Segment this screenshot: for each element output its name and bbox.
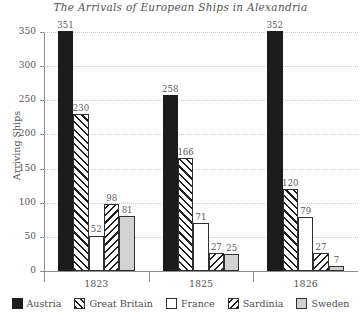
bar-value-label: 27	[307, 242, 334, 252]
y-axis-label: Arriving Ships	[11, 91, 22, 201]
legend-item-great-britain[interactable]: Great Britain	[74, 298, 152, 309]
legend-swatch-icon	[166, 298, 177, 309]
legend-label: Great Britain	[89, 298, 152, 309]
legend-label: Sweden	[311, 298, 349, 309]
x-tick-label: 1826	[253, 278, 358, 289]
y-tick-label: 0	[2, 265, 36, 275]
legend-item-austria[interactable]: Austria	[12, 298, 62, 309]
legend-swatch-icon	[296, 298, 307, 309]
grid-line	[44, 169, 358, 170]
x-axis-separator	[44, 271, 45, 282]
bar-sardinia-1825	[209, 253, 224, 271]
bar-value-label: 81	[113, 205, 140, 215]
bar-value-label: 258	[157, 84, 184, 94]
legend-swatch-icon	[12, 298, 23, 309]
plot-area: 35123052988125816671272535212079277	[44, 32, 358, 271]
grid-line	[44, 32, 358, 33]
y-tick-label: 250	[2, 94, 36, 104]
y-tick-label: 50	[2, 231, 36, 241]
bar-austria-1825	[163, 95, 178, 271]
bar-austria-1823	[58, 31, 73, 271]
bar-france-1823	[89, 236, 104, 272]
legend-label: Sardinia	[243, 298, 284, 309]
chart-legend: AustriaGreat BritainFranceSardiniaSweden	[0, 298, 361, 309]
bar-sweden-1823	[119, 216, 134, 271]
legend-swatch-icon	[74, 298, 85, 309]
grid-line	[44, 100, 358, 101]
x-axis-separator	[253, 271, 254, 282]
y-tick-label: 200	[2, 128, 36, 138]
chart-title: The Arrivals of European Ships in Alexan…	[0, 1, 361, 13]
bar-value-label: 120	[277, 178, 304, 188]
bar-austria-1826	[267, 31, 282, 271]
y-tick-label: 100	[2, 197, 36, 207]
bar-value-label: 98	[98, 193, 125, 203]
legend-swatch-icon	[228, 298, 239, 309]
bar-great-britain-1826	[283, 189, 298, 271]
bar-great-britain-1823	[73, 114, 88, 271]
bar-sweden-1826	[329, 266, 344, 271]
x-axis-separator	[149, 271, 150, 282]
y-tick-label: 150	[2, 163, 36, 173]
x-axis-line	[44, 271, 358, 272]
bar-value-label: 7	[323, 255, 350, 265]
grid-line	[44, 66, 358, 67]
y-tick-label: 350	[2, 26, 36, 36]
legend-label: France	[181, 298, 215, 309]
bar-value-label: 166	[172, 147, 199, 157]
y-tick-label: 300	[2, 60, 36, 70]
bar-value-label: 79	[292, 206, 319, 216]
bar-value-label: 230	[67, 103, 94, 113]
legend-item-sweden[interactable]: Sweden	[296, 298, 349, 309]
grid-line	[44, 203, 358, 204]
x-tick-label: 1825	[149, 278, 254, 289]
bar-value-label: 71	[187, 212, 214, 222]
bar-chart: The Arrivals of European Ships in Alexan…	[0, 0, 361, 321]
bar-value-label: 351	[52, 20, 79, 30]
bar-sweden-1825	[224, 254, 239, 271]
bar-value-label: 352	[261, 20, 288, 30]
grid-line	[44, 134, 358, 135]
legend-item-sardinia[interactable]: Sardinia	[228, 298, 284, 309]
bar-value-label: 25	[218, 243, 245, 253]
legend-item-france[interactable]: France	[166, 298, 215, 309]
legend-label: Austria	[27, 298, 62, 309]
x-tick-label: 1823	[44, 278, 149, 289]
